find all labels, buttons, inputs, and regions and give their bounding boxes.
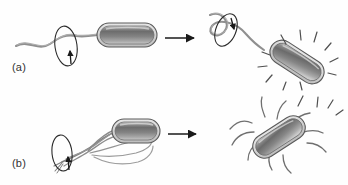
panel-a-tumble-cell-group (210, 10, 338, 90)
panel-a-run-cell-group (16, 23, 157, 67)
panel-a-run-flagellum (16, 34, 97, 47)
panel-b-tumble-motion-lines (298, 96, 343, 115)
panel-b-tumble-cell-group (230, 96, 343, 173)
panel-b-run-cell-group (50, 119, 160, 173)
figure-container: (a) (b) (0, 0, 348, 185)
panel-a-tumble-cell-body (265, 36, 328, 89)
panel-label-a: (a) (12, 61, 26, 73)
panel-a-run-rotation-indicator (52, 25, 79, 68)
figure-illustration (0, 0, 348, 185)
panel-a-run-cell-body (97, 23, 157, 47)
panel-b-run-cell-body (112, 119, 160, 143)
panel-label-b: (b) (12, 157, 26, 169)
panel-b-tumble-cell-body (248, 111, 310, 163)
